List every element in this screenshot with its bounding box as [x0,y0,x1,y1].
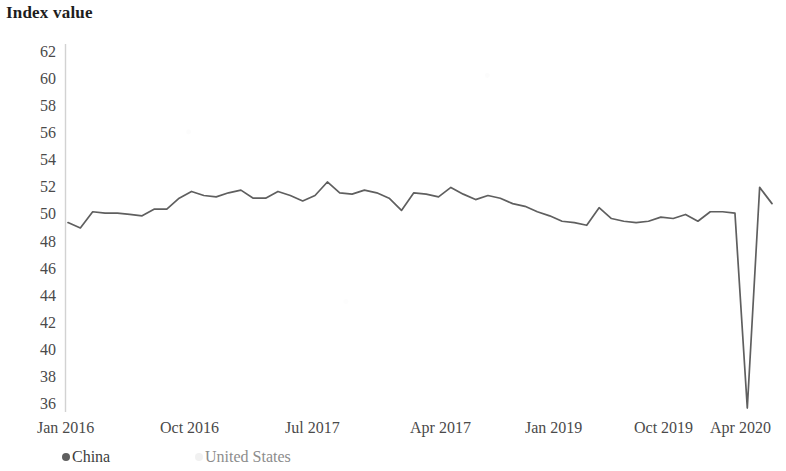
y-tick-42: 42 [22,315,56,331]
legend-label-united-states: United States [205,448,291,466]
y-tick-38: 38 [22,369,56,385]
x-tick-oct-2019: Oct 2019 [634,419,693,437]
x-tick-oct-2016: Oct 2016 [160,419,219,437]
x-tick-jan-2016: Jan 2016 [37,419,94,437]
y-tick-50: 50 [22,206,56,222]
x-tick-apr-2020: Apr 2020 [710,419,771,437]
y-tick-62: 62 [22,44,56,60]
chart-legend: China United States [0,446,786,471]
x-tick-jan-2019: Jan 2019 [525,419,582,437]
y-tick-60: 60 [22,71,56,87]
y-tick-48: 48 [22,234,56,250]
y-tick-44: 44 [22,288,56,304]
y-tick-40: 40 [22,342,56,358]
chart-svg [0,0,786,471]
x-tick-apr-2017: Apr 2017 [410,419,471,437]
y-tick-58: 58 [22,98,56,114]
y-tick-56: 56 [22,125,56,141]
series-line-china [68,182,772,408]
y-tick-46: 46 [22,261,56,277]
legend-marker-united-states-icon [195,453,203,461]
legend-label-china: China [72,448,110,466]
legend-item-china[interactable]: China [62,448,110,466]
legend-marker-china-icon [62,453,70,461]
x-tick-jul-2017: Jul 2017 [285,419,340,437]
chart-plot-area: 6260585654525048464442403836 Jan 2016Oct… [0,0,786,471]
y-tick-36: 36 [22,396,56,412]
y-tick-52: 52 [22,179,56,195]
y-tick-54: 54 [22,152,56,168]
legend-item-united-states[interactable]: United States [195,448,291,466]
